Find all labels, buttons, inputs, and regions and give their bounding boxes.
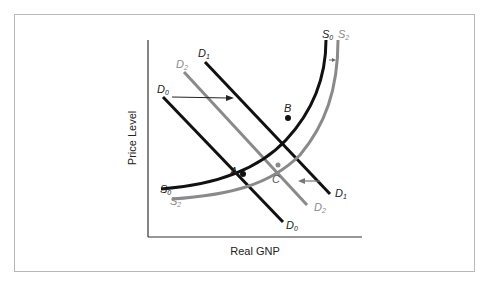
aggregate-supply-demand-diagram: A B C D0 D2 D1 S0 S2 D0 D2 D1 S0 S2 Real… — [0, 0, 487, 284]
point-label-b: B — [284, 102, 291, 114]
equilibrium-point-a — [240, 171, 246, 177]
supply-shift-arrow — [329, 58, 336, 62]
label-d1-bottom: D1 — [335, 187, 347, 200]
label-s0-top: S0 — [322, 28, 333, 41]
equilibrium-point-c — [276, 163, 281, 168]
y-axis-title: Price Level — [126, 111, 138, 165]
label-d0-top: D0 — [157, 83, 169, 96]
demand-shift-arrow — [172, 95, 234, 101]
label-d1-top: D1 — [198, 47, 210, 60]
label-d2-top: D2 — [176, 58, 188, 71]
label-s2-top: S2 — [338, 28, 349, 41]
x-axis-title: Real GNP — [230, 245, 280, 257]
point-label-c: C — [272, 173, 280, 185]
demand-curve-d1 — [205, 62, 330, 194]
label-d0-bottom: D0 — [286, 219, 298, 232]
point-label-a: A — [229, 165, 237, 177]
supply-curve-s0 — [161, 40, 326, 189]
equilibrium-point-b — [285, 115, 291, 121]
label-d2-bottom: D2 — [314, 201, 326, 214]
